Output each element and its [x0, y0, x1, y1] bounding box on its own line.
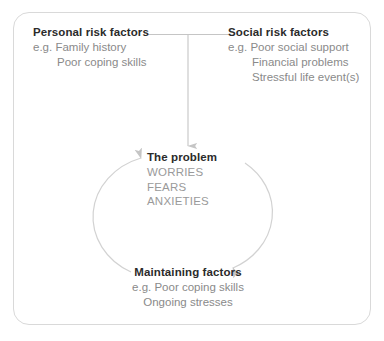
personal-risk-factors-block: Personal risk factors e.g. Family histor… [33, 25, 149, 70]
social-risk-factors-item: Stressful life event(s) [228, 70, 359, 85]
the-problem-item: WORRIES [147, 165, 217, 180]
maintaining-factors-item: e.g. Poor coping skills [132, 280, 244, 295]
maintaining-factors-item: Ongoing stresses [132, 295, 244, 310]
personal-risk-factors-item: Poor coping skills [33, 55, 149, 70]
maintaining-factors-block: Maintaining factors e.g. Poor coping ski… [132, 265, 244, 310]
diagram-canvas: Personal risk factors e.g. Family histor… [0, 0, 384, 341]
maintaining-factors-heading: Maintaining factors [132, 265, 244, 280]
the-problem-heading: The problem [147, 150, 217, 165]
the-problem-item: FEARS [147, 180, 217, 195]
the-problem-block: The problem WORRIES FEARS ANXIETIES [147, 150, 217, 209]
social-risk-factors-item: e.g. Poor social support [228, 40, 359, 55]
social-risk-factors-heading: Social risk factors [228, 25, 359, 40]
the-problem-item: ANXIETIES [147, 194, 217, 209]
personal-risk-factors-heading: Personal risk factors [33, 25, 149, 40]
personal-risk-factors-item: e.g. Family history [33, 40, 149, 55]
social-risk-factors-item: Financial problems [228, 55, 359, 70]
social-risk-factors-block: Social risk factors e.g. Poor social sup… [228, 25, 359, 85]
